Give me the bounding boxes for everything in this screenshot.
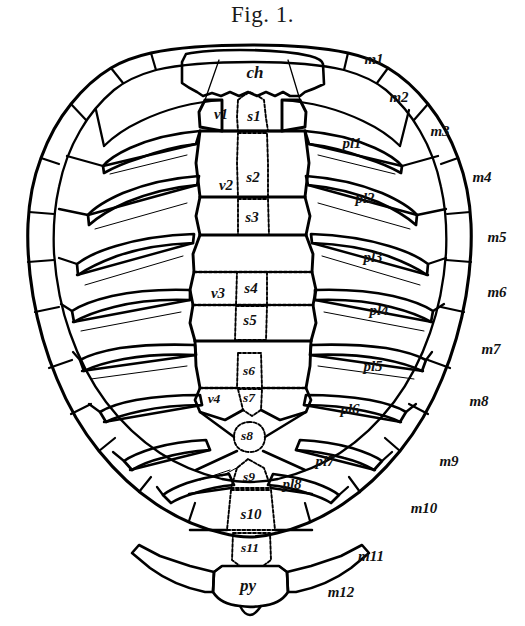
label-marginal-m3: m3 — [430, 124, 449, 139]
label-nuchal-ch: ch — [247, 64, 264, 81]
label-pleural-pl1: pl1 — [342, 136, 361, 151]
label-neural-s1: s1 — [247, 109, 260, 124]
label-marginal-m8: m8 — [469, 394, 488, 409]
label-neural-s11: s11 — [241, 541, 259, 555]
label-pleural-pl3: pl3 — [363, 250, 382, 265]
label-neural-s8: s8 — [241, 429, 253, 443]
label-vertebral-v1: v1 — [214, 107, 228, 122]
label-vertebral-v4: v4 — [208, 392, 221, 406]
label-pleural-pl2: pl2 — [355, 191, 374, 206]
label-pleural-pl6: pl6 — [340, 402, 359, 417]
label-marginal-m5: m5 — [487, 230, 506, 245]
label-marginal-m7: m7 — [481, 342, 500, 357]
pygal-left-neighbor — [132, 545, 214, 592]
label-neural-s9: s9 — [243, 470, 255, 484]
label-marginal-m2: m2 — [389, 90, 408, 105]
label-pleural-pl8: pl8 — [282, 477, 301, 492]
label-pleural-pl5: pl5 — [363, 359, 382, 374]
pygal-suture-left — [214, 566, 222, 572]
carapace-line-drawing — [0, 0, 525, 626]
pygal-suture-right — [279, 566, 287, 572]
label-marginal-m6: m6 — [487, 285, 506, 300]
label-marginal-m1: m1 — [364, 52, 383, 67]
label-neural-s4: s4 — [244, 281, 257, 296]
label-marginal-m4: m4 — [472, 170, 491, 185]
label-marginal-m9: m9 — [439, 454, 458, 469]
label-marginal-m10: m10 — [411, 501, 438, 516]
label-marginal-m12: m12 — [328, 585, 355, 600]
label-pleural-pl7: pl7 — [315, 454, 334, 469]
label-neural-s5: s5 — [243, 313, 256, 328]
label-vertebral-v2: v2 — [219, 178, 233, 193]
label-neural-s10: s10 — [241, 507, 262, 522]
figure-container: Fig. 1. — [0, 0, 525, 626]
label-marginal-m11: m11 — [358, 549, 384, 564]
label-neural-s3: s3 — [245, 210, 258, 225]
label-pleural-pl4: pl4 — [369, 303, 388, 318]
label-neural-s2: s2 — [246, 170, 259, 185]
label-neural-s6: s6 — [243, 364, 255, 378]
label-pygal-py: py — [240, 577, 256, 594]
label-vertebral-v3: v3 — [211, 286, 225, 301]
label-neural-s7: s7 — [243, 391, 255, 405]
